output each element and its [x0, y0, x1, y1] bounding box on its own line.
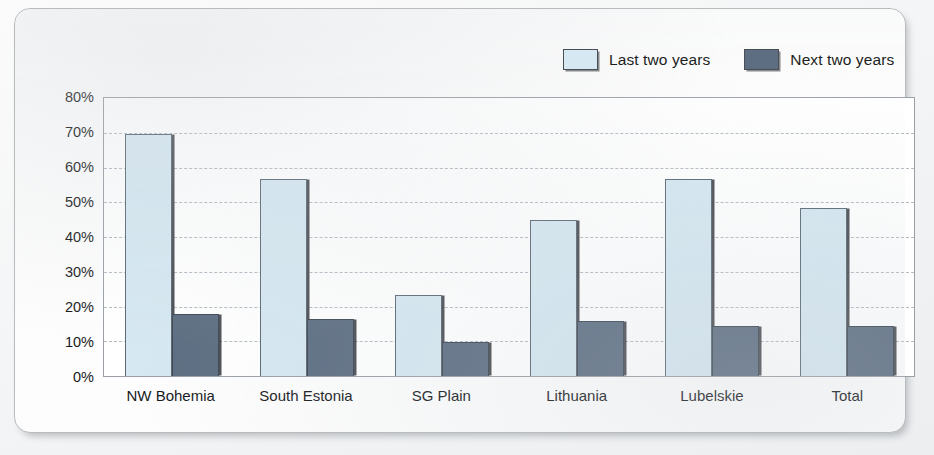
x-axis-tick-labels: NW BohemiaSouth EstoniaSG PlainLithuania…	[103, 387, 915, 404]
bar[interactable]	[577, 321, 624, 376]
bar[interactable]	[800, 208, 847, 376]
bar[interactable]	[665, 179, 712, 376]
bar-group	[104, 98, 239, 376]
bar-group	[779, 98, 914, 376]
legend-entry[interactable]: Last two years	[563, 49, 710, 70]
bar[interactable]	[125, 134, 172, 377]
legend-entry[interactable]: Next two years	[744, 49, 894, 70]
x-axis-tick-label: NW Bohemia	[103, 387, 238, 404]
y-axis-tick-label: 60%	[65, 159, 94, 175]
bar[interactable]	[260, 179, 307, 376]
x-axis-tick-label: South Estonia	[238, 387, 373, 404]
x-axis-tick-label: Lubelskie	[644, 387, 779, 404]
y-axis-tick-label: 30%	[65, 264, 94, 280]
x-axis-tick-label: Lithuania	[509, 387, 644, 404]
y-axis-tick-label: 80%	[65, 89, 94, 105]
bar-group	[239, 98, 374, 376]
y-axis-tick-label: 70%	[65, 124, 94, 140]
plot-area-wrapper: 80%70%60%50%40%30%20%10%0%	[103, 97, 915, 377]
y-axis-tick-label: 20%	[65, 299, 94, 315]
bar-group	[644, 98, 779, 376]
y-axis-tick-label: 0%	[73, 369, 94, 385]
bar[interactable]	[530, 220, 577, 376]
legend-label: Next two years	[790, 51, 894, 69]
bar[interactable]	[712, 326, 759, 376]
bar[interactable]	[172, 314, 219, 376]
bar-group	[374, 98, 509, 376]
y-axis-tick-label: 10%	[65, 334, 94, 350]
bar[interactable]	[847, 326, 894, 376]
x-axis-tick-label: SG Plain	[374, 387, 509, 404]
bar[interactable]	[307, 319, 354, 376]
bar[interactable]	[395, 295, 442, 376]
x-axis-tick-label: Total	[780, 387, 915, 404]
bar[interactable]	[442, 342, 489, 376]
bar-group	[509, 98, 644, 376]
light-blue-swatch	[563, 49, 598, 70]
dark-slate-swatch	[744, 49, 779, 70]
y-axis-tick-label: 50%	[65, 194, 94, 210]
plot-area	[103, 97, 915, 377]
chart-legend: Last two yearsNext two years	[563, 49, 894, 70]
bar-groups	[104, 98, 914, 376]
chart-card: Last two yearsNext two years 80%70%60%50…	[14, 8, 906, 433]
legend-label: Last two years	[609, 51, 710, 69]
y-axis-tick-label: 40%	[65, 229, 94, 245]
scanned-page-background: Last two yearsNext two years 80%70%60%50…	[0, 0, 934, 455]
